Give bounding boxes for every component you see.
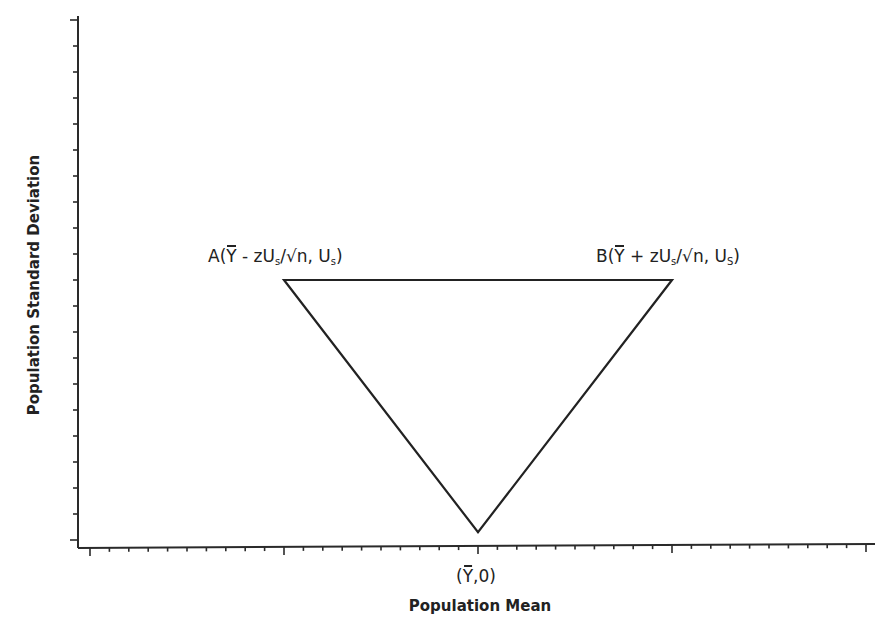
point-a-mid: - zU [237,246,275,266]
point-b-label: B(Y + zUs/√n, US) [596,246,740,267]
point-a-label: A(Y - zUs/√n, Us) [208,246,343,267]
chart-canvas [0,0,883,628]
point-b-mid: + zU [625,246,671,266]
point-b-suffix: ) [733,246,740,266]
origin-prefix: ( [456,566,463,586]
y-bar-symbol: Y [463,566,473,586]
y-axis-ticks [70,20,78,540]
y-bar-symbol: Y [226,246,236,266]
y-bar-symbol: Y [614,246,624,266]
point-b-prefix: B( [596,246,614,266]
point-a-prefix: A( [208,246,226,266]
point-b-mid2: /√n, U [676,246,727,266]
origin-suffix: ,0) [473,566,496,586]
point-a-mid2: /√n, U [280,246,331,266]
point-a-suffix: ) [336,246,343,266]
x-axis-title: Population Mean [409,597,551,615]
x-origin-label: (Y,0) [456,566,496,586]
x-axis-line [78,544,875,548]
confidence-triangle [284,280,672,532]
y-axis-title: Population Standard Deviation [25,155,43,415]
